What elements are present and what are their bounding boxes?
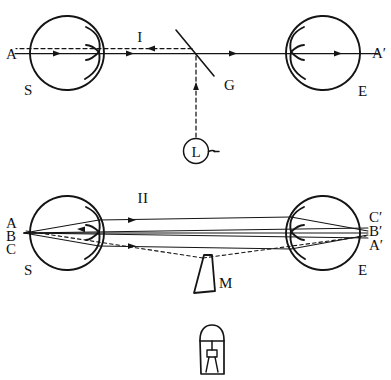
ray-lower-a — [24, 233, 368, 238]
panel-label-roman-one: I — [137, 29, 143, 45]
panel-one-group: A S A′ E G L I — [6, 16, 386, 164]
label-E-panel-one: E — [358, 83, 367, 99]
dashed-ray-arrow — [77, 227, 85, 233]
label-A-prime-panel-one: A′ — [372, 45, 386, 61]
panel-two-group: A B C S C′ B′ A′ E M II — [6, 190, 383, 293]
lamp-L — [184, 139, 220, 164]
label-S-panel-two: S — [24, 262, 32, 278]
optical-diagram-svg: A S A′ E G L I — [0, 0, 391, 380]
axis-arrow-2 — [126, 51, 134, 57]
ray-lower-parallel — [99, 246, 291, 249]
instrument-leg-left — [206, 357, 209, 372]
label-E-panel-two: E — [358, 262, 367, 278]
ray-upper-arrow — [128, 217, 136, 223]
label-A-panel-one: A — [6, 46, 17, 62]
dashed-ray-to-right-eye — [203, 236, 366, 258]
instrument-leg-right — [215, 357, 218, 372]
label-M-object: M — [219, 275, 232, 291]
figure-root: A S A′ E G L I — [0, 0, 391, 380]
ray-lower-arrow — [128, 243, 136, 249]
label-C-panel-two: C — [6, 241, 16, 257]
label-S-panel-one: S — [24, 82, 32, 98]
dashed-beam-arrow-left — [147, 46, 155, 52]
ray-upper-a — [24, 228, 368, 233]
bottom-instrument-glyph — [200, 325, 224, 374]
cornea-inner-hook-upper-2L — [86, 225, 99, 232]
label-L-lamp: L — [191, 144, 200, 160]
axis-arrow-1 — [53, 51, 61, 57]
ray-upper-diverge-left — [24, 220, 99, 233]
cornea-inner-hook-upper-right — [291, 45, 304, 52]
label-A-prime-panel-two: A′ — [369, 237, 383, 253]
axis-arrow-3 — [229, 51, 237, 57]
panel-label-roman-two: II — [138, 190, 149, 206]
ray-upper-parallel — [99, 217, 291, 220]
instrument-box — [207, 350, 217, 357]
label-G-beam-splitter: G — [224, 77, 235, 93]
axis-arrow-4 — [334, 51, 342, 57]
lamp-beam-arrow-up — [193, 82, 199, 90]
object-M-shape — [194, 255, 215, 293]
